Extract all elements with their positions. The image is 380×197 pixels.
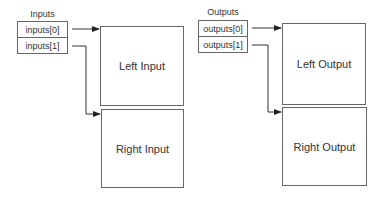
arrow-inputs1-to-right-input [72, 46, 100, 114]
right-input-box: Right Input [101, 109, 184, 188]
left-input-box: Left Input [100, 26, 184, 106]
arrow-outputs1-to-right-output [252, 45, 281, 112]
inputs-1-cell: inputs[1] [17, 37, 68, 54]
outputs-0-cell: outputs[0] [198, 20, 248, 37]
outputs-title: Outputs [198, 7, 248, 17]
outputs-1-cell: outputs[1] [198, 36, 248, 53]
right-output-box: Right Output [282, 107, 367, 186]
left-output-box: Left Output [282, 23, 366, 105]
inputs-0-cell: inputs[0] [17, 21, 68, 38]
inputs-title: Inputs [17, 9, 68, 19]
